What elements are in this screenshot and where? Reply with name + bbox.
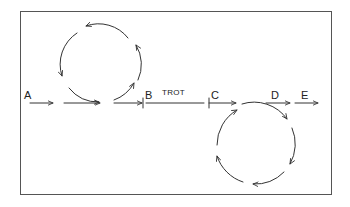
lower-cycle-arrow-left-up <box>217 110 237 145</box>
lower-cycle <box>217 102 295 184</box>
label-e: E <box>301 90 308 101</box>
upper-cycle-arrow-right <box>114 83 134 100</box>
label-b: B <box>145 90 152 101</box>
upper-cycle <box>60 24 141 102</box>
lower-cycle-arrow-right <box>290 128 295 164</box>
upper-cycle-arrow-left <box>60 33 77 76</box>
lower-cycle-arrow-top <box>242 102 287 119</box>
label-a: A <box>24 90 31 101</box>
label-c: C <box>211 90 219 101</box>
upper-cycle-arrow-right-up <box>136 45 141 80</box>
label-d: D <box>271 90 279 101</box>
diagram-canvas <box>0 0 350 207</box>
upper-cycle-arrow-bottom <box>69 88 99 102</box>
lower-cycle-arrow-left <box>217 156 243 182</box>
lower-cycle-arrow-bottom <box>253 172 284 184</box>
label-trot: TROT <box>162 89 185 97</box>
upper-cycle-arrow-top <box>86 24 128 38</box>
